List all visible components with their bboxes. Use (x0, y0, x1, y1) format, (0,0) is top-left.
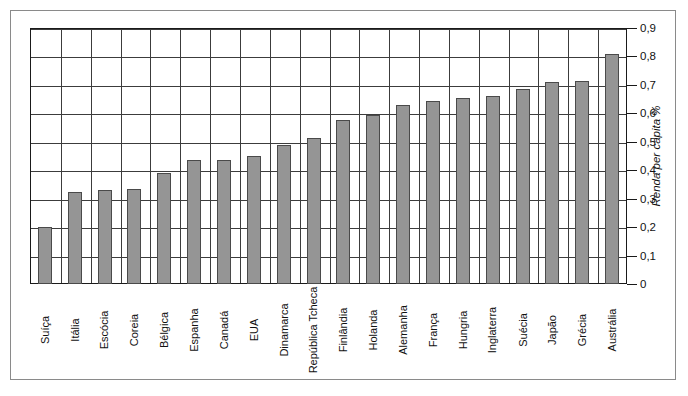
bar[interactable] (98, 190, 112, 284)
bar-slot (358, 28, 388, 284)
x-axis-category-label: Inglaterra (478, 288, 508, 380)
bar-slot (567, 28, 597, 284)
y-axis-tick (627, 142, 637, 143)
bar[interactable] (157, 173, 171, 284)
bar-slot (60, 28, 90, 284)
x-axis-category-label-text: Austrália (606, 309, 618, 352)
y-axis-title-text: Renda per capita % (649, 105, 661, 206)
bar-slot (299, 28, 329, 284)
x-axis-category-label-text: França (427, 313, 439, 347)
bar-slot (90, 28, 120, 284)
x-axis-category-label-text: Itália (69, 318, 81, 341)
bar-slot (30, 28, 60, 284)
y-axis-tick (627, 199, 637, 200)
y-axis-tick (627, 256, 637, 257)
chart-page: 00,10,20,30,40,50,60,70,80,9 Renda per c… (0, 0, 688, 396)
bar[interactable] (217, 160, 231, 284)
bar-slot (388, 28, 418, 284)
x-axis-category-label: Dinamarca (269, 288, 299, 380)
x-axis-category-label: Canadá (209, 288, 239, 380)
bar[interactable] (68, 192, 82, 284)
bar[interactable] (605, 54, 619, 284)
y-axis-tick (627, 284, 637, 285)
x-axis-category-label-text: Coreia (128, 314, 140, 346)
bar-series (30, 28, 627, 284)
x-axis-category-label: Grécia (567, 288, 597, 380)
x-axis-category-label: Hungria (448, 288, 478, 380)
x-axis-category-label-text: Escócia (99, 311, 111, 350)
x-axis-category-label-text: República Tcheca (308, 287, 320, 374)
bar[interactable] (575, 81, 589, 284)
y-axis-tick (627, 113, 637, 114)
y-axis-tick (627, 28, 637, 29)
bar-slot (149, 28, 179, 284)
bar[interactable] (545, 82, 559, 284)
x-axis-category-label: Suíça (30, 288, 60, 380)
x-axis-category-label: França (418, 288, 448, 380)
x-axis-category-label: Coreia (120, 288, 150, 380)
bar-slot (179, 28, 209, 284)
x-axis-category-label-text: Inglaterra (487, 307, 499, 353)
x-axis-category-label-text: Dinamarca (278, 303, 290, 356)
x-axis-category-label: Alemanha (388, 288, 418, 380)
x-axis-category-label-text: Suíça (39, 316, 51, 344)
bar[interactable] (187, 160, 201, 284)
x-axis-category-label: Bélgica (149, 288, 179, 380)
x-axis-category-labels: SuíçaItáliaEscóciaCoreiaBélgicaEspanhaCa… (30, 288, 627, 380)
bar[interactable] (396, 105, 410, 284)
bar[interactable] (456, 98, 470, 284)
bar[interactable] (366, 115, 380, 284)
y-axis-title: Renda per capita % (646, 28, 664, 284)
x-axis-category-label-text: Suécia (517, 313, 529, 347)
bar-slot (329, 28, 359, 284)
x-axis-category-label-text: Japão (546, 315, 558, 345)
x-axis-category-label: Holanda (358, 288, 388, 380)
x-axis-category-label-text: Holanda (367, 310, 379, 351)
x-axis-category-label: Escócia (90, 288, 120, 380)
x-axis-category-label: Suécia (508, 288, 538, 380)
bar-slot (597, 28, 627, 284)
bar-slot (508, 28, 538, 284)
x-axis-category-label-text: Espanha (188, 308, 200, 351)
x-axis-category-label-text: Canadá (218, 311, 230, 350)
x-axis-category-label-text: Bélgica (158, 312, 170, 348)
bar[interactable] (336, 120, 350, 284)
x-axis-category-label: Japão (537, 288, 567, 380)
x-axis-category-label-text: Grécia (576, 314, 588, 346)
bar-slot (239, 28, 269, 284)
x-axis-category-label: Austrália (597, 288, 627, 380)
x-axis-category-label-text: Alemanha (397, 305, 409, 355)
bar[interactable] (516, 89, 530, 284)
y-axis-tick (627, 85, 637, 86)
x-axis-category-label-text: EUA (248, 319, 260, 342)
x-axis-category-label: República Tcheca (299, 288, 329, 380)
y-axis-tick (627, 227, 637, 228)
bar[interactable] (307, 138, 321, 284)
x-axis-category-label: EUA (239, 288, 269, 380)
bar[interactable] (277, 145, 291, 284)
y-axis-tick (627, 56, 637, 57)
y-axis-tick (627, 170, 637, 171)
x-axis-category-label: Itália (60, 288, 90, 380)
x-axis-category-label: Finlândia (329, 288, 359, 380)
bar-slot (269, 28, 299, 284)
bar[interactable] (127, 189, 141, 284)
x-axis-category-label-text: Finlândia (337, 308, 349, 353)
bar-slot (448, 28, 478, 284)
bar-slot (418, 28, 448, 284)
x-axis-category-label: Espanha (179, 288, 209, 380)
bar-slot (209, 28, 239, 284)
bar[interactable] (486, 96, 500, 284)
bar[interactable] (426, 101, 440, 284)
bar[interactable] (38, 227, 52, 284)
bar-slot (478, 28, 508, 284)
bar-slot (120, 28, 150, 284)
bar[interactable] (247, 156, 261, 284)
x-axis-category-label-text: Hungria (457, 311, 469, 350)
bar-slot (537, 28, 567, 284)
